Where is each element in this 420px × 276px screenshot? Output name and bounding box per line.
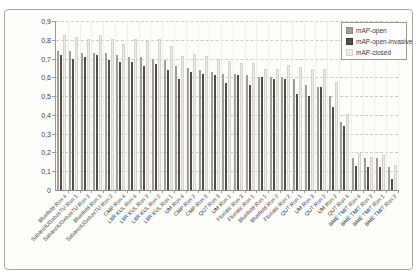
bar-map-open <box>293 79 295 190</box>
bar-map-open-invasive <box>84 57 86 190</box>
bar-map-open <box>105 53 107 190</box>
bar-map-closed <box>146 41 149 190</box>
x-axis-tick <box>339 190 340 193</box>
bar-map-open-invasive <box>332 107 334 190</box>
bar-map-closed <box>346 114 349 190</box>
legend-item-map-open: mAP-open <box>346 27 403 34</box>
bar-map-closed <box>111 39 114 190</box>
bar-map-open-invasive <box>284 79 286 190</box>
bar-map-closed <box>311 69 314 190</box>
bar-map-open <box>270 77 272 190</box>
legend-item-map-closed: mAP-closed <box>346 49 403 56</box>
bar-map-open-invasive <box>249 85 251 190</box>
bar-map-open-invasive <box>367 167 369 190</box>
y-axis-label: 0,6 <box>19 74 51 81</box>
bar-group <box>115 21 127 190</box>
bar-map-open-invasive <box>108 60 110 190</box>
y-axis-label: 0,8 <box>19 37 51 44</box>
bar-map-closed <box>264 69 267 190</box>
x-axis-tick <box>198 190 199 193</box>
bar-map-closed <box>287 65 290 190</box>
bar-map-closed <box>181 56 184 190</box>
bar-group <box>103 21 115 190</box>
bar-map-open-invasive <box>237 75 239 190</box>
x-axis-tick <box>115 190 116 193</box>
y-axis-label: 0,7 <box>19 56 51 63</box>
bar-map-closed <box>205 56 208 190</box>
bar-group <box>327 21 339 190</box>
bar-map-open <box>175 66 177 190</box>
bar-map-closed <box>122 44 125 190</box>
bar-map-open-invasive <box>343 126 345 190</box>
bar-map-open-invasive <box>60 55 62 190</box>
bar-map-open-invasive <box>214 75 216 190</box>
bar-group <box>186 21 198 190</box>
bar-group <box>304 21 316 190</box>
bar-map-open <box>211 72 213 190</box>
legend-marker-map-open-invasive <box>346 38 353 45</box>
bar-map-open-invasive <box>178 79 180 190</box>
bar-map-open-invasive <box>296 94 298 190</box>
bar-map-open-invasive <box>143 66 145 190</box>
bar-map-open <box>376 158 378 190</box>
bar-map-closed <box>299 67 302 190</box>
bar-group <box>315 21 327 190</box>
bar-map-open <box>140 57 142 190</box>
y-axis-label: 0,1 <box>19 168 51 175</box>
x-axis-tick <box>386 190 387 193</box>
x-axis-tick <box>363 190 364 193</box>
bar-map-open <box>57 51 59 190</box>
bar-map-open-invasive <box>379 167 381 190</box>
bar-group <box>80 21 92 190</box>
bar-map-open <box>329 96 331 190</box>
x-axis-tick <box>127 190 128 193</box>
chart-screenshot: { "figure": { "background": "#ffffff", "… <box>0 0 420 276</box>
bar-map-open-invasive <box>355 166 357 190</box>
bar-map-open <box>305 85 307 190</box>
bar-map-open <box>352 158 354 190</box>
bar-map-closed <box>217 59 220 190</box>
bar-map-open <box>246 75 248 190</box>
x-axis-tick <box>91 190 92 193</box>
legend-item-map-open-invasive: mAP-open-invasive <box>346 38 403 45</box>
bar-map-open-invasive <box>72 59 74 190</box>
legend: mAP-open mAP-open-invasive mAP-closed <box>341 22 407 60</box>
bar-group <box>91 21 103 190</box>
x-axis-tick <box>221 190 222 193</box>
bar-map-open-invasive <box>320 87 322 190</box>
bar-map-closed <box>370 157 373 190</box>
bar-map-open <box>317 87 319 190</box>
bar-map-open <box>93 53 95 190</box>
y-axis-label: 0,5 <box>19 93 51 100</box>
x-axis-tick <box>139 190 140 193</box>
x-axis-tick <box>315 190 316 193</box>
legend-label-map-open: mAP-open <box>356 27 387 34</box>
bar-map-open <box>164 60 166 190</box>
bar-map-open-invasive <box>167 70 169 190</box>
bar-map-open-invasive <box>190 72 192 190</box>
bar-map-closed <box>276 69 279 190</box>
bar-group <box>233 21 245 190</box>
bar-map-closed <box>252 63 255 190</box>
y-axis-label: 0,2 <box>19 149 51 156</box>
bar-map-open-invasive <box>308 96 310 190</box>
bar-map-closed <box>158 39 161 190</box>
bar-map-open-invasive <box>155 64 157 190</box>
bar-map-open <box>364 158 366 190</box>
bar-group <box>256 21 268 190</box>
bar-group <box>268 21 280 190</box>
bar-map-closed <box>99 35 102 190</box>
bar-map-open-invasive <box>202 74 204 190</box>
x-axis-tick <box>233 190 234 193</box>
bar-map-closed <box>382 155 385 190</box>
x-axis-tick <box>398 190 399 193</box>
bar-group <box>127 21 139 190</box>
x-axis-tick <box>150 190 151 193</box>
x-axis-tick <box>174 190 175 193</box>
y-axis-label: 0 <box>19 187 51 194</box>
chart-frame: mAP-open mAP-open-invasive mAP-closed 00… <box>4 9 413 270</box>
bar-map-closed <box>335 82 338 190</box>
x-axis-tick <box>304 190 305 193</box>
bar-map-open-invasive <box>119 62 121 190</box>
bar-map-open <box>340 122 342 190</box>
